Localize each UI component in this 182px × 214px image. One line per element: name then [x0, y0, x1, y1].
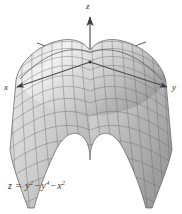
surface-equation: z = y2−y4−x2: [8, 179, 65, 191]
equation-term-3: x2: [57, 180, 65, 191]
surface-plot-figure: x y z z = y2−y4−x2: [0, 0, 182, 214]
origin-marker: [88, 60, 91, 63]
x-axis-label: x: [4, 83, 8, 92]
equation-lhs: z: [8, 180, 12, 191]
equation-equals: =: [15, 180, 23, 191]
y-axis-label: y: [172, 83, 176, 92]
equation-term-3-exponent: 2: [62, 179, 65, 186]
z-axis-label: z: [86, 2, 90, 11]
